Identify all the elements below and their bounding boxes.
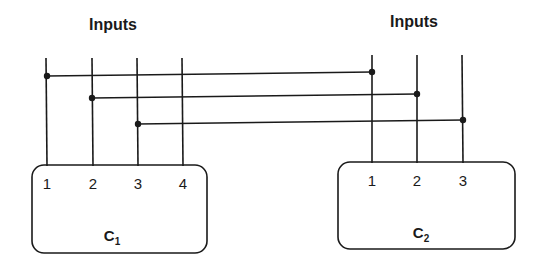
c2-pin-label-2: 2 xyxy=(413,172,421,189)
c2-input-line-3 xyxy=(462,55,463,163)
c1-subscript: 1 xyxy=(115,236,121,247)
c1-pin-label-4: 4 xyxy=(179,175,187,192)
junction-dot-c1-3 xyxy=(135,121,141,127)
c1-label: C1 xyxy=(104,227,121,247)
c2-name: C xyxy=(413,224,424,241)
connection-line-2 xyxy=(92,94,417,98)
junction-dot-c1-2 xyxy=(89,95,95,101)
diagram-canvas: Inputs Inputs 1 2 3 4 C1 1 2 3 C2 xyxy=(0,0,541,270)
right-inputs-title: Inputs xyxy=(390,13,438,30)
c2-pin-label-1: 1 xyxy=(368,172,376,189)
junction-dot-c2-1 xyxy=(369,69,375,75)
connection-line-3 xyxy=(138,120,463,124)
c1-pin-label-1: 1 xyxy=(43,175,51,192)
junction-dot-c2-3 xyxy=(460,117,466,123)
connection-line-1 xyxy=(47,72,372,76)
c2-label: C2 xyxy=(413,224,430,244)
c1-input-line-2 xyxy=(92,58,93,166)
c1-pin-label-2: 2 xyxy=(89,175,97,192)
c1-name: C xyxy=(104,227,115,244)
left-inputs-title: Inputs xyxy=(89,16,137,33)
junction-dot-c2-2 xyxy=(414,91,420,97)
c2-pin-label-3: 3 xyxy=(459,172,467,189)
c2-subscript: 2 xyxy=(424,233,430,244)
junction-dot-c1-1 xyxy=(44,73,50,79)
c1-pin-label-3: 3 xyxy=(134,175,142,192)
